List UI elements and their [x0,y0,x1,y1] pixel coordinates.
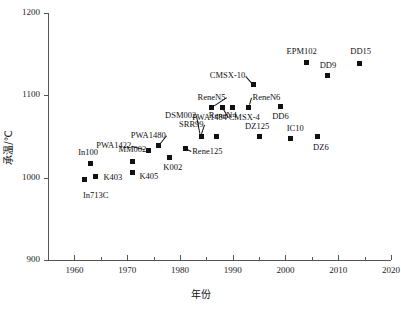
y-tick [44,95,49,96]
y-tick [44,260,49,261]
data-point-label: DD9 [320,61,337,70]
y-tick-label: 1000 [0,173,40,182]
x-tick-label: 1970 [107,266,147,275]
y-tick-label: 1200 [0,8,40,17]
data-point [199,134,204,139]
x-tick-minor [101,257,102,260]
x-tick [233,255,234,260]
data-point [146,148,151,153]
x-tick-minor [312,257,313,260]
data-point-label: K403 [103,173,122,182]
x-tick-minor [365,257,366,260]
data-point-label: DZ6 [313,143,329,152]
data-point-label: In713C [83,191,109,200]
data-point-label: IC10 [287,124,304,133]
scatter-chart: In713CK403In100MM002K405PWA1422PWA1480K0… [0,0,401,311]
data-point-label: K405 [139,172,158,181]
x-tick [338,255,339,260]
x-tick-label: 1980 [160,266,200,275]
data-point [304,60,309,65]
data-point-label: DD15 [350,47,371,56]
data-point [278,104,283,109]
data-point [183,146,188,151]
data-point [130,159,135,164]
data-point-label: In100 [78,148,98,157]
data-point [288,136,293,141]
label-leader-line [245,76,252,83]
x-tick [74,255,75,260]
data-point-label: PWA1484 [192,113,227,122]
label-leader-line [188,149,192,152]
data-point-label: DD6 [272,112,289,121]
x-tick-minor [206,257,207,260]
data-point [93,174,98,179]
label-leader-line [248,97,251,104]
x-tick-label: 2000 [265,266,305,275]
x-axis-line [48,260,391,261]
x-tick-minor [154,257,155,260]
x-tick [391,255,392,260]
x-tick [285,255,286,260]
data-point [257,134,262,139]
x-axis-title: 年份 [0,286,401,301]
data-point-label: ReneN6 [253,93,281,102]
data-point-label: PWA1480 [131,131,166,140]
data-point [214,134,219,139]
x-tick [127,255,128,260]
data-point-label: PWA1422 [96,141,131,150]
data-point [88,161,93,166]
data-point-label: Rene125 [192,147,222,156]
data-point [325,73,330,78]
data-point [251,82,256,87]
data-point [357,61,362,66]
x-tick-minor [259,257,260,260]
data-point-label: K002 [163,163,182,172]
data-point-label: CMSX-10 [210,71,245,80]
data-point [82,177,87,182]
x-tick [180,255,181,260]
y-axis-line [48,13,49,261]
y-tick-label: 900 [0,255,40,264]
data-point-label: DZ125 [245,122,269,131]
y-tick [44,178,49,179]
x-tick-label: 2020 [371,266,401,275]
data-point [167,155,172,160]
x-tick-label: 1990 [213,266,253,275]
y-tick-label: 1100 [0,90,40,99]
data-point-label: EPM102 [287,47,317,56]
x-tick-label: 2010 [318,266,358,275]
y-tick [44,13,49,14]
data-point [246,105,251,110]
data-point [230,105,235,110]
data-point [315,134,320,139]
data-point [130,170,135,175]
x-tick-label: 1960 [54,266,94,275]
